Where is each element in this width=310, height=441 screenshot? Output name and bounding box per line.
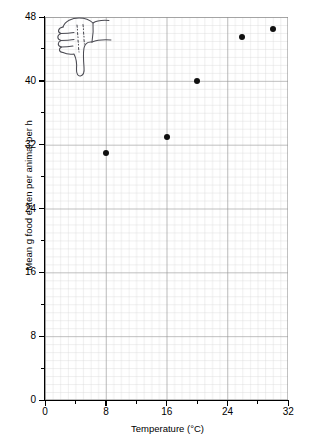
y-tick-label: 16 <box>8 267 36 277</box>
x-tick-label: 32 <box>273 407 303 417</box>
y-tick-major <box>39 272 45 273</box>
x-tick-minor <box>136 400 137 404</box>
y-tick-label: 8 <box>8 331 36 341</box>
y-tick-label: 40 <box>8 76 36 86</box>
y-tick-label: 48 <box>8 12 36 22</box>
x-tick-label: 16 <box>152 407 182 417</box>
y-tick-major <box>39 144 45 145</box>
x-tick-minor <box>257 400 258 404</box>
y-tick-major <box>39 17 45 18</box>
data-point <box>239 34 245 40</box>
y-tick-minor <box>41 176 45 177</box>
data-point <box>270 26 276 32</box>
y-tick-minor <box>41 240 45 241</box>
plot-area <box>45 17 288 400</box>
x-tick-minor <box>75 400 76 404</box>
y-tick-minor <box>41 368 45 369</box>
y-tick-minor <box>41 304 45 305</box>
scatter-chart: Mean g food eaten per animal per h <box>0 0 310 441</box>
x-axis-title: Temperature (°C) <box>45 423 290 434</box>
y-tick-label: 24 <box>8 204 36 214</box>
x-tick-label: 0 <box>30 407 60 417</box>
data-point <box>164 134 170 140</box>
y-tick-major <box>39 336 45 337</box>
y-tick-major <box>39 80 45 81</box>
data-points-layer <box>45 17 288 400</box>
x-tick-minor <box>197 400 198 404</box>
x-tick-label: 24 <box>213 407 243 417</box>
data-point <box>194 78 200 84</box>
y-tick-minor <box>41 48 45 49</box>
y-tick-label: 0 <box>8 395 36 405</box>
y-tick-label: 32 <box>8 140 36 150</box>
data-point <box>103 150 109 156</box>
y-tick-major <box>39 208 45 209</box>
x-tick-label: 8 <box>91 407 121 417</box>
y-tick-minor <box>41 112 45 113</box>
